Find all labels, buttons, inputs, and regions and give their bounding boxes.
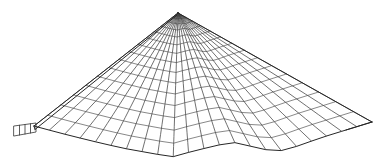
wireframe-figure	[0, 0, 385, 167]
cone-wireframe-drawing	[0, 0, 385, 167]
